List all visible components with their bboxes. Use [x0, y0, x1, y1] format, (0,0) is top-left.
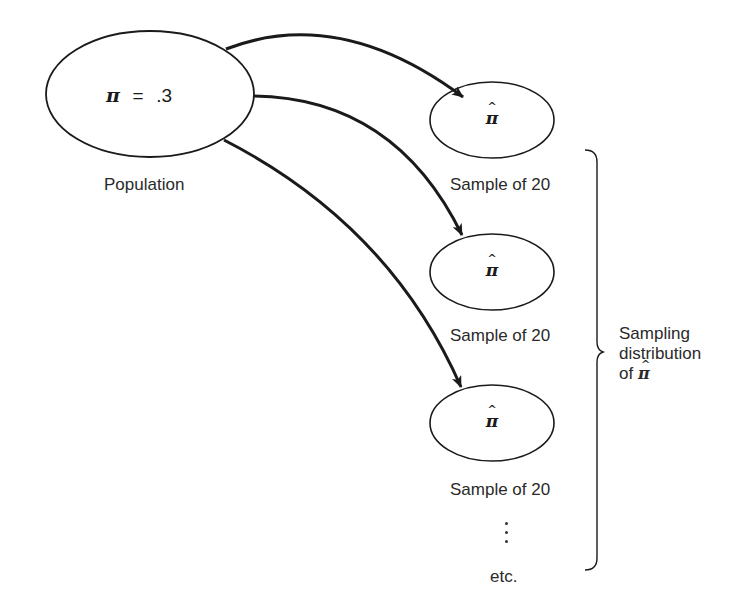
population-parameter: π = .3 [106, 84, 172, 107]
annotation-line-2: distribution [619, 344, 701, 364]
pi-symbol: π [106, 84, 120, 106]
curly-brace [585, 150, 603, 570]
vertical-ellipsis [503, 522, 511, 549]
annotation-line-1: Sampling [619, 324, 701, 344]
annotation-line-3: of ^ π [619, 364, 701, 384]
sample-label-2: Sample of 20 [450, 326, 550, 346]
annotation-of: of [619, 364, 633, 383]
arrow-to-sample-1 [226, 35, 463, 97]
equals-sign: = [133, 85, 144, 106]
sample-label-1: Sample of 20 [450, 175, 550, 195]
sample-statistic-1: ^ π [484, 104, 500, 127]
population-label: Population [104, 175, 184, 195]
sampling-distribution-label: Sampling distribution of ^ π [619, 324, 701, 384]
pi-hat-symbol: π [486, 260, 498, 280]
sample-statistic-2: ^ π [484, 256, 500, 279]
dot [505, 531, 508, 534]
pi-hat-symbol: π [486, 108, 498, 128]
sample-label-3: Sample of 20 [450, 480, 550, 500]
dot [505, 540, 508, 543]
etc-label: etc. [490, 567, 517, 587]
parameter-value: .3 [156, 85, 172, 106]
dot [505, 522, 508, 525]
sample-statistic-3: ^ π [484, 407, 500, 430]
pi-hat-symbol: π [486, 411, 498, 431]
pi-hat-symbol: ^ π [638, 364, 650, 384]
hat-accent: ^ [641, 355, 650, 375]
